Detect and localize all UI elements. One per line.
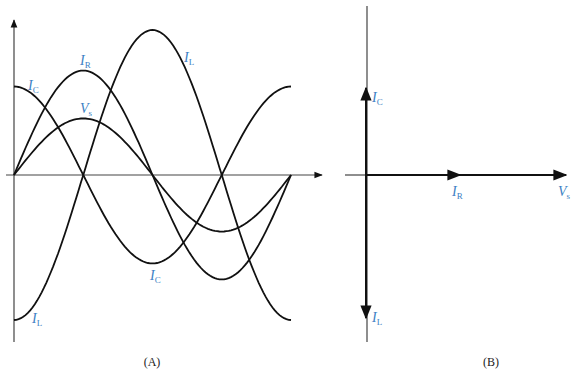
label-ic-top: IC	[27, 78, 39, 95]
rlc-diagram: IC IR Vs IL IC IL (A) IC IR Vs IL (B)	[0, 0, 574, 378]
waveform-panel: IC IR Vs IL IC IL (A)	[6, 20, 322, 369]
caption-b: (B)	[483, 355, 499, 369]
phasor-label-il: IL	[371, 310, 382, 327]
phasor-panel: IC IR Vs IL (B)	[345, 6, 571, 369]
label-il-bottom: IL	[31, 311, 42, 328]
label-vs: Vs	[80, 101, 93, 118]
label-il-top: IL	[183, 50, 194, 67]
phasor-label-ic: IC	[371, 90, 383, 107]
phasor-label-ir: IR	[451, 184, 463, 201]
label-ic-bottom: IC	[149, 268, 161, 285]
phasor-label-vs: Vs	[558, 184, 571, 201]
label-ir: IR	[79, 53, 91, 70]
caption-a: (A)	[144, 355, 161, 369]
